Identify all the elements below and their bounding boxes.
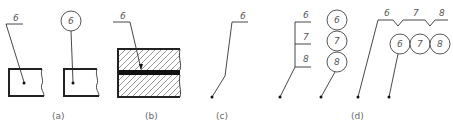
label-7: 7 <box>417 39 423 49</box>
caption-d: (d) <box>351 111 364 121</box>
panel-c-leader: 6 <box>211 11 249 99</box>
label-7: 7 <box>334 36 340 46</box>
panel-b-section: 6 <box>72 11 222 97</box>
label-6: 6 <box>120 11 126 21</box>
panel-d-horizontal-circles: 6 7 8 <box>388 34 451 99</box>
panel-d-stacked-flags: 6 7 8 <box>279 10 312 99</box>
caption-b: (b) <box>145 111 158 121</box>
caption-a: (a) <box>52 111 65 121</box>
label-8: 8 <box>439 8 445 18</box>
panel-a-flag-leader: 6 <box>6 13 44 96</box>
panel-a-circle-leader: 6 <box>61 11 99 96</box>
label-6: 6 <box>13 13 19 23</box>
label-6: 6 <box>334 15 340 25</box>
label-8: 8 <box>334 57 340 67</box>
label-6: 6 <box>240 11 246 21</box>
caption-c: (c) <box>216 111 228 121</box>
leader-line-diagram: 6 6 (a) <box>0 0 453 129</box>
label-6: 6 <box>384 8 390 18</box>
panel-d-stacked-circles: 6 7 8 <box>320 10 348 99</box>
label-8: 8 <box>437 39 443 49</box>
label-8: 8 <box>303 54 309 64</box>
label-7: 7 <box>413 8 419 18</box>
label-7: 7 <box>303 32 309 42</box>
label-6: 6 <box>303 10 309 20</box>
label-6: 6 <box>68 16 74 26</box>
label-6: 6 <box>397 39 403 49</box>
